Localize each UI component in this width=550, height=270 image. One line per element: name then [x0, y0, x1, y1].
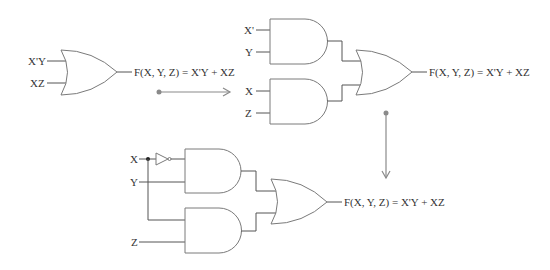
- stage3-not-bubble: [168, 158, 171, 161]
- stage3-output-label: F(X, Y, Z) = X'Y + XZ: [344, 196, 445, 209]
- stage2-and-gate-1: [270, 19, 328, 64]
- stage2-output-label: F(X, Y, Z) = X'Y + XZ: [429, 66, 530, 79]
- stage2-input-label-y: Y: [245, 46, 253, 58]
- stage2-or-gate: [356, 50, 412, 95]
- stage3-input-label-z: Z: [131, 236, 138, 248]
- stage1-input-label-1: X'Y: [28, 55, 46, 67]
- logic-diagram: X'Y XZ F(X, Y, Z) = X'Y + XZ X' Y X Z F(…: [0, 0, 550, 270]
- stage3-and-gate-2: [185, 208, 242, 253]
- stage1-input-label-2: XZ: [30, 77, 45, 89]
- stage2-input-label-z: Z: [245, 107, 252, 119]
- stage3-x-branch-wire: [148, 159, 185, 220]
- stage3-or-gate: [271, 179, 327, 224]
- stage3-input-label-y: Y: [130, 176, 138, 188]
- arrow-right: [157, 90, 231, 95]
- stage2-input-label-x: X: [245, 85, 253, 97]
- stage1-circuit: X'Y XZ F(X, Y, Z) = X'Y + XZ: [28, 50, 235, 95]
- stage2-circuit: X' Y X Z F(X, Y, Z) = X'Y + XZ: [244, 19, 530, 124]
- stage3-input-label-x: X: [130, 153, 138, 165]
- stage3-circuit: X Y Z F(X, Y, Z) = X'Y + XZ: [130, 149, 445, 253]
- stage1-or-gate: [61, 50, 117, 95]
- stage2-input-label-xprime: X': [244, 24, 254, 36]
- arrow-down: [384, 111, 389, 179]
- stage1-output-label: F(X, Y, Z) = X'Y + XZ: [134, 66, 235, 79]
- stage3-not-gate: [156, 153, 168, 165]
- stage2-and-gate-2: [270, 79, 328, 124]
- stage3-and-gate-1: [185, 149, 241, 193]
